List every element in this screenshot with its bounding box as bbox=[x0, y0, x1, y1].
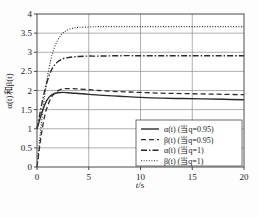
legend-label-1: β(t) (当q=0.95) bbox=[164, 135, 214, 145]
x-tick-label: 20 bbox=[240, 172, 250, 182]
y-tick-label: 0.5 bbox=[21, 143, 33, 153]
y-tick-label: 2.5 bbox=[21, 66, 33, 76]
x-axis-title: t/s bbox=[136, 180, 145, 190]
y-axis-title: α(t)和β(t) bbox=[4, 73, 14, 108]
x-tick-label: 0 bbox=[35, 172, 40, 182]
y-tick-label: 4 bbox=[28, 9, 33, 19]
y-tick-labels: 00.511.522.533.54 bbox=[21, 9, 33, 172]
y-tick-label: 0 bbox=[28, 162, 33, 172]
x-tick-label: 5 bbox=[87, 172, 92, 182]
line-chart: 05101520 00.511.522.533.54 t/s α(t)和β(t)… bbox=[0, 0, 258, 217]
y-tick-label: 1.5 bbox=[21, 105, 33, 115]
legend-label-2: α(t) (当q=1) bbox=[164, 145, 204, 155]
y-tick-label: 3.5 bbox=[21, 28, 33, 38]
legend-label-0: α(t) (当q=0.95) bbox=[164, 124, 214, 134]
chart-legend: α(t) (当q=0.95)β(t) (当q=0.95)α(t) (当q=1)β… bbox=[136, 120, 242, 166]
chart-figure: 05101520 00.511.522.533.54 t/s α(t)和β(t)… bbox=[0, 0, 258, 217]
y-tick-label: 2 bbox=[28, 86, 33, 96]
y-tick-label: 1 bbox=[28, 124, 33, 134]
legend-label-3: β(t) (当q=1) bbox=[164, 156, 204, 166]
y-tick-label: 3 bbox=[28, 47, 33, 57]
x-tick-label: 15 bbox=[188, 172, 198, 182]
